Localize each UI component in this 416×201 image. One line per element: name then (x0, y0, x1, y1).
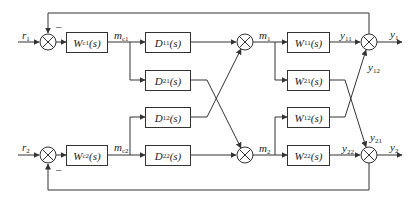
label-r1: r1 (22, 30, 30, 43)
label-y12: y12 (368, 62, 380, 75)
minus-sign-bottom: − (55, 165, 62, 176)
label-m1: m1 (259, 30, 270, 43)
plant-w12: W12(s) (287, 107, 330, 128)
label-y22: y22 (342, 143, 354, 156)
plant-w22: W22(s) (287, 145, 330, 166)
controller-wc2: Wc2(s) (66, 145, 108, 166)
decoupler-d22: D22(s) (145, 145, 191, 166)
label-r2: r2 (22, 142, 30, 155)
label-y11: y11 (340, 30, 352, 43)
minus-sign-top: − (55, 22, 62, 33)
decoupler-d12: D12(s) (145, 107, 191, 128)
label-y1: y1 (390, 29, 398, 42)
label-y21: y21 (370, 132, 382, 145)
label-mc2: mc2 (114, 142, 129, 155)
plant-w11: W11(s) (287, 32, 330, 53)
block-diagram: Wc1(s) Wc2(s) D11(s) D21(s) D12(s) D22(s… (0, 0, 416, 201)
decoupler-d21: D21(s) (145, 70, 191, 91)
label-y2: y2 (390, 142, 398, 155)
label-mc1: mc1 (114, 30, 129, 43)
plant-w21: W21(s) (287, 70, 330, 91)
controller-wc1: Wc1(s) (66, 32, 108, 53)
label-m2: m2 (259, 143, 270, 156)
decoupler-d11: D11(s) (145, 32, 191, 53)
